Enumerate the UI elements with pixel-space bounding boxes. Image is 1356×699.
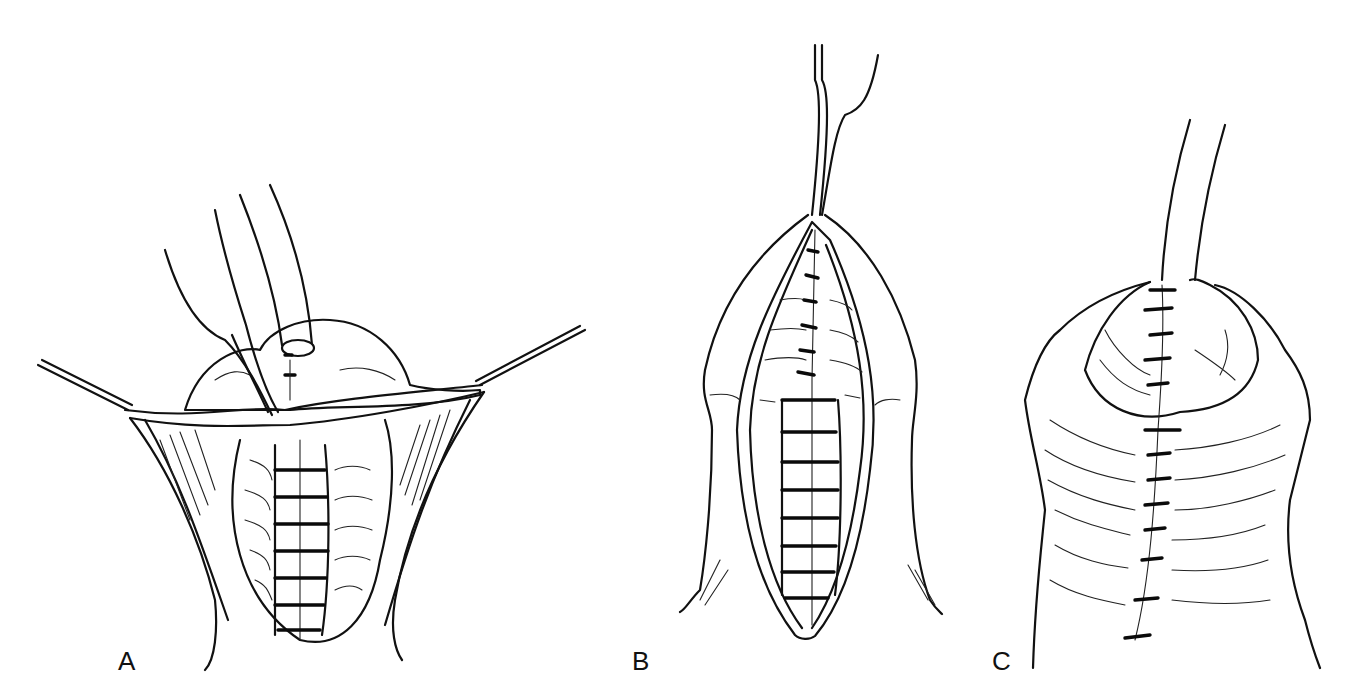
panel-c-drawing bbox=[1025, 120, 1320, 668]
panel-label-b: B bbox=[632, 648, 649, 674]
panel-label-c: C bbox=[992, 648, 1011, 674]
surgical-illustration bbox=[0, 0, 1356, 699]
panel-b-drawing bbox=[680, 45, 942, 639]
panel-label-a: A bbox=[118, 648, 135, 674]
panel-a-drawing bbox=[38, 185, 585, 670]
